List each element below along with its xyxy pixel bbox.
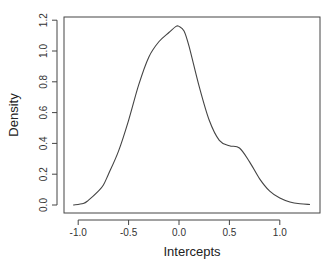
density-curve — [73, 26, 310, 205]
y-tick-label: 1.2 — [38, 13, 49, 27]
x-tick-label: 0.5 — [222, 227, 236, 238]
y-tick-label: 1.0 — [38, 44, 49, 58]
y-tick-label: 0.6 — [38, 105, 49, 119]
y-tick-label: 0.4 — [38, 136, 49, 150]
x-tick-label: 1.0 — [273, 227, 287, 238]
x-axis: -1.0-0.50.00.51.0 — [70, 220, 288, 238]
x-tick-label: -1.0 — [70, 227, 88, 238]
x-tick-label: -0.5 — [120, 227, 138, 238]
y-axis-title: Density — [6, 93, 21, 137]
x-axis-title: Intercepts — [163, 244, 221, 259]
y-tick-label: 0.2 — [38, 167, 49, 181]
y-axis: 0.00.20.40.60.81.01.2 — [38, 13, 57, 212]
y-tick-label: 0.0 — [38, 198, 49, 212]
density-chart: 0.00.20.40.60.81.01.2 -1.0-0.50.00.51.0 … — [0, 0, 333, 276]
plot-frame — [64, 17, 320, 213]
y-tick-label: 0.8 — [38, 74, 49, 88]
x-tick-label: 0.0 — [172, 227, 186, 238]
